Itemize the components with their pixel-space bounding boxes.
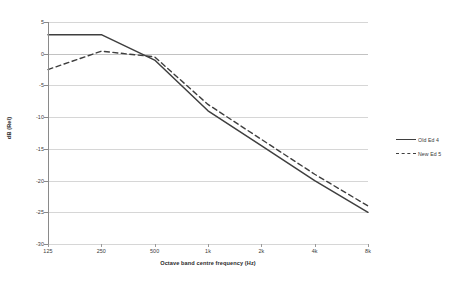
series-line-new-ed-5 (48, 51, 368, 206)
y-axis-tick-label: -15 (20, 146, 44, 152)
y-axis-tick-mark (44, 22, 48, 23)
x-axis-tick-labels: 1252505001k2k4k8k (48, 248, 368, 258)
x-axis-tick-label: 1k (191, 248, 225, 255)
x-axis-title: Octave band centre frequency (Hz) (48, 260, 368, 266)
chart-legend: Old Ed 4 New Ed 5 (396, 133, 454, 161)
x-axis-tick-mark (155, 244, 156, 247)
legend-swatch-solid-icon (396, 136, 416, 144)
y-axis-tick-mark (44, 54, 48, 55)
y-axis-tick-mark (44, 85, 48, 86)
y-axis-tick-mark (44, 212, 48, 213)
legend-swatch-dashed-icon (396, 150, 416, 158)
y-axis-tick-mark (44, 181, 48, 182)
y-axis-tick-label: 0 (20, 51, 44, 57)
y-axis-title: dB (Rel) (6, 106, 12, 150)
series-line-old-ed-4 (48, 35, 368, 213)
x-axis-tick-mark (261, 244, 262, 247)
x-axis-tick-mark (101, 244, 102, 247)
y-axis-tick-mark (44, 149, 48, 150)
x-axis-tick-mark (315, 244, 316, 247)
x-axis-tick-label: 125 (31, 248, 65, 255)
legend-label-new-ed-5: New Ed 5 (416, 151, 441, 158)
legend-label-old-ed-4: Old Ed 4 (416, 137, 439, 144)
series-layer (48, 22, 368, 244)
x-axis-tick-label: 500 (138, 248, 172, 255)
legend-entry-new-ed-5: New Ed 5 (396, 147, 454, 161)
y-axis-tick-label: 5 (20, 19, 44, 25)
x-axis-tick-label: 4k (298, 248, 332, 255)
y-axis-tick-label: -25 (20, 209, 44, 215)
y-axis-tick-labels: 50-5-10-15-20-25-30 (18, 22, 44, 244)
x-axis-tick-label: 8k (351, 248, 385, 255)
plot-area (48, 22, 368, 244)
y-axis-tick-mark (44, 117, 48, 118)
y-axis-tick-label: -30 (20, 241, 44, 247)
chart-container: 50-5-10-15-20-25-30 1252505001k2k4k8k Oc… (0, 0, 457, 281)
x-axis-tick-mark (48, 244, 49, 247)
x-axis-tick-mark (208, 244, 209, 247)
y-axis-tick-label: -20 (20, 178, 44, 184)
x-axis-tick-label: 2k (244, 248, 278, 255)
legend-entry-old-ed-4: Old Ed 4 (396, 133, 454, 147)
y-axis-tick-label: -10 (20, 114, 44, 120)
y-axis-tick-label: -5 (20, 82, 44, 88)
y-axis-line (48, 22, 49, 244)
x-axis-tick-label: 250 (84, 248, 118, 255)
x-axis-tick-mark (368, 244, 369, 247)
